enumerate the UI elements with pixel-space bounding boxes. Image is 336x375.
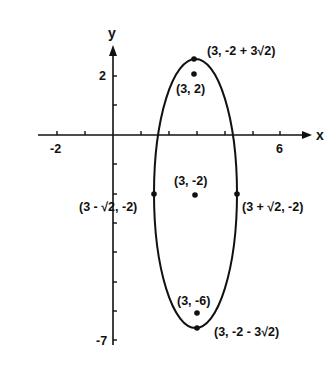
focus-lower-label: (3, -6) xyxy=(177,294,210,308)
y-axis: 2 -7 y xyxy=(96,25,117,348)
right-covertex-point xyxy=(234,191,240,197)
diagram-canvas: -2 6 x 2 -7 y xyxy=(0,0,336,375)
center-point xyxy=(192,192,198,198)
y-axis-arrow-icon xyxy=(109,45,117,56)
top-vertex-point xyxy=(191,56,197,62)
top-vertex-label: (3, -2 + 3√2) xyxy=(207,44,275,58)
left-covertex-label: (3 - √2, -2) xyxy=(79,200,137,214)
left-covertex-point xyxy=(151,191,157,197)
focus-upper-point xyxy=(191,71,197,77)
x-axis-arrow-icon xyxy=(302,131,312,139)
x-tick-label: -2 xyxy=(50,142,61,156)
focus-upper-label: (3, 2) xyxy=(176,82,205,96)
x-axis-label: x xyxy=(316,127,324,143)
y-tick-label: -7 xyxy=(96,334,107,348)
points xyxy=(151,56,240,331)
x-axis: -2 6 x xyxy=(38,127,324,156)
y-tick-label: 2 xyxy=(99,69,106,83)
bottom-vertex-label: (3, -2 - 3√2) xyxy=(214,325,279,339)
right-covertex-label: (3 + √2, -2) xyxy=(242,200,303,214)
y-axis-label: y xyxy=(108,25,116,41)
center-label: (3, -2) xyxy=(174,174,207,188)
x-tick-label: 6 xyxy=(276,142,283,156)
ellipse-diagram: -2 6 x 2 -7 y xyxy=(0,0,336,375)
focus-lower-point xyxy=(194,310,200,316)
bottom-vertex-point xyxy=(194,325,200,331)
